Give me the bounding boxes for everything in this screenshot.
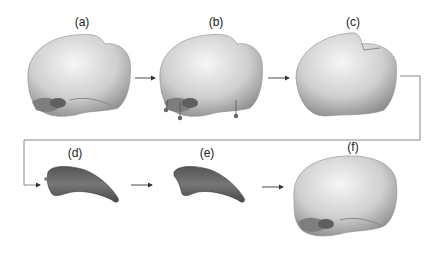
landmark-point	[44, 177, 48, 181]
skull-a	[28, 34, 131, 116]
panel-label-e: (e)	[200, 146, 215, 160]
skull-b	[160, 34, 263, 120]
pipeline-figure	[0, 0, 442, 256]
fragment-d	[44, 166, 118, 202]
panel-label-d: (d)	[68, 146, 83, 160]
vault-c	[296, 33, 397, 116]
panel-label-c: (c)	[346, 15, 360, 29]
panel-label-b: (b)	[209, 15, 224, 29]
fragment-e	[174, 166, 245, 202]
panel-label-a: (a)	[75, 15, 90, 29]
panel-label-f: (f)	[347, 140, 358, 154]
skull-f	[294, 156, 397, 236]
